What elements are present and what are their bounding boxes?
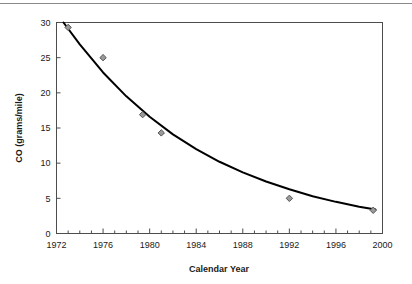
figure-container: 051015202530 197219761980198419881992199… [0, 0, 412, 284]
y-tick-label: 10 [40, 158, 50, 168]
x-axis-tick-labels: 19721976198019841988199219962000 [46, 240, 392, 250]
y-tick-label: 25 [40, 53, 50, 63]
data-point-markers [65, 24, 376, 213]
exponential-fit-line [63, 23, 375, 210]
x-tick-label: 2000 [372, 240, 392, 250]
data-point-marker [158, 130, 164, 136]
y-tick-label: 0 [45, 229, 50, 239]
x-tick-label: 1984 [186, 240, 206, 250]
y-tick-label: 5 [45, 194, 50, 204]
x-tick-label: 1980 [140, 240, 160, 250]
x-tick-label: 1976 [93, 240, 113, 250]
x-tick-label: 1972 [46, 240, 66, 250]
x-tick-label: 1996 [326, 240, 346, 250]
co-emissions-scatter-chart: 051015202530 197219761980198419881992199… [0, 0, 412, 284]
x-tick-label: 1992 [279, 240, 299, 250]
y-tick-label: 20 [40, 88, 50, 98]
y-tick-label: 30 [40, 18, 50, 28]
data-point-marker [100, 54, 106, 60]
x-axis-title: Calendar Year [189, 264, 249, 274]
x-tick-label: 1988 [233, 240, 253, 250]
y-axis-tick-labels: 051015202530 [40, 18, 50, 239]
y-axis-ticks [57, 23, 61, 234]
y-axis-title: CO (grams/mile) [14, 93, 24, 163]
data-point-marker [286, 195, 292, 201]
y-tick-label: 15 [40, 123, 50, 133]
